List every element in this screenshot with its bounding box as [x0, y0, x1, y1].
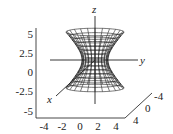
z-tick: -2.5	[16, 85, 34, 97]
axes	[50, 16, 138, 104]
hyperboloid-plot: z y x 5 2.5 0 -2.5 -5 -4 -2 0 2 4 -4 0 4	[0, 0, 173, 134]
y-tick: 4	[133, 114, 139, 126]
x-tick: 0	[77, 120, 83, 132]
z-axis-label: z	[91, 3, 97, 15]
y-axis-label: y	[139, 54, 145, 66]
x-tick-labels: -4 -2 0 2 4	[39, 120, 119, 132]
y-tick: 0	[145, 102, 151, 114]
z-tick: 2.5	[19, 47, 33, 59]
x-tick: -2	[57, 120, 66, 132]
z-tick: -5	[24, 105, 34, 117]
x-tick: 2	[95, 120, 101, 132]
y-tick: -4	[154, 90, 164, 102]
z-tick-labels: 5 2.5 0 -2.5 -5	[16, 28, 34, 117]
z-tick: 0	[28, 66, 34, 78]
x-tick: 4	[113, 120, 119, 132]
x-axis-label: x	[46, 93, 52, 105]
x-tick: -4	[39, 120, 49, 132]
z-tick: 5	[28, 28, 34, 40]
y-tick-labels: -4 0 4	[133, 90, 164, 126]
